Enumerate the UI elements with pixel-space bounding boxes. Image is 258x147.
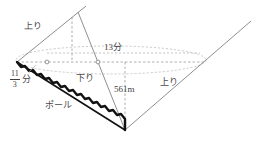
fraction-unit: 分 xyxy=(22,75,31,84)
pole-zigzag-line-shadow xyxy=(17,62,125,130)
fraction-denominator: 3 xyxy=(12,80,18,89)
slope-line-right-ascend xyxy=(125,21,251,130)
label-ascent-right: 上り xyxy=(160,78,178,87)
base-marker-mid xyxy=(96,60,100,64)
label-pole: ポール xyxy=(45,101,72,110)
diagram-canvas: 上り 13分 下り 561m 上り ポール 11 3 分 xyxy=(0,0,258,147)
base-marker-left xyxy=(45,60,49,64)
slope-line-apex-to-bottom xyxy=(78,12,125,130)
label-fraction-time: 11 3 分 xyxy=(10,70,31,89)
fraction-group: 11 3 xyxy=(10,70,20,89)
slope-line-left-ascend xyxy=(17,6,86,62)
fraction-numerator: 11 xyxy=(10,70,20,79)
label-height-561m: 561m xyxy=(114,85,135,94)
label-descent: 下り xyxy=(76,74,94,83)
label-ascent-left: 上り xyxy=(24,22,42,31)
label-distance-13fun: 13分 xyxy=(104,43,122,52)
